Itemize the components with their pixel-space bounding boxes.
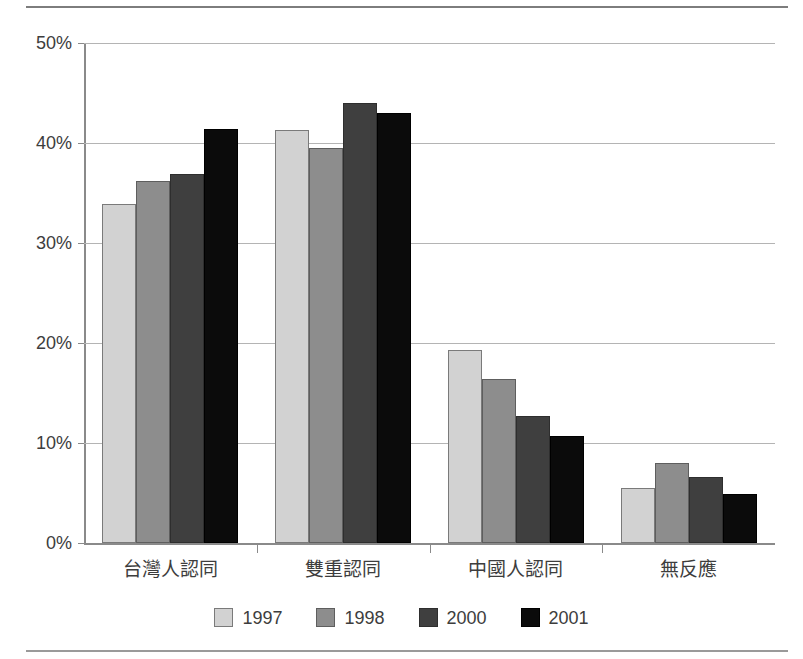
bar-1997-group-1 [102, 204, 136, 543]
bar-chart: 0%10%20%30%40%50% 台灣人認同雙重認同中國人認同無反應 1997… [0, 0, 803, 659]
bar-1998-group-4 [655, 463, 689, 543]
legend-label-2001: 2001 [549, 609, 589, 627]
chart-legend: 1997199820002001 [0, 608, 803, 627]
x-tick-mark [602, 545, 603, 553]
x-axis-category-label-2: 雙重認同 [257, 558, 430, 582]
x-axis-category-label-4: 無反應 [602, 558, 775, 582]
legend-swatch-1998 [316, 608, 335, 627]
legend-swatch-2001 [521, 608, 540, 627]
legend-swatch-2000 [419, 608, 438, 627]
x-tick-mark [257, 545, 258, 553]
y-axis-label-40pct: 40% [10, 134, 72, 152]
y-axis-label-50pct: 50% [10, 34, 72, 52]
plot-area [84, 43, 775, 543]
legend-label-2000: 2000 [447, 609, 487, 627]
bar-group-1 [102, 43, 238, 543]
bar-group-3 [448, 43, 584, 543]
bar-2001-group-1 [204, 129, 238, 543]
bar-2001-group-4 [723, 494, 757, 543]
legend-item-2000: 2000 [419, 608, 487, 627]
bar-1998-group-2 [309, 148, 343, 543]
figure-top-divider [26, 6, 788, 8]
legend-swatch-1997 [214, 608, 233, 627]
bar-1997-group-4 [621, 488, 655, 543]
x-tick-mark [430, 545, 431, 553]
y-axis-label-10pct: 10% [10, 434, 72, 452]
bar-2000-group-4 [689, 477, 723, 543]
bar-2000-group-3 [516, 416, 550, 543]
x-axis-category-label-1: 台灣人認同 [84, 558, 257, 582]
bar-1998-group-3 [482, 379, 516, 543]
bar-2000-group-2 [343, 103, 377, 543]
bar-2001-group-3 [550, 436, 584, 543]
figure-bottom-divider [26, 650, 788, 652]
bar-group-2 [275, 43, 411, 543]
legend-item-1997: 1997 [214, 608, 282, 627]
bar-1998-group-1 [136, 181, 170, 543]
bar-group-4 [621, 43, 757, 543]
y-axis-tick-labels: 0%10%20%30%40%50% [0, 0, 72, 659]
legend-item-1998: 1998 [316, 608, 384, 627]
bar-2000-group-1 [170, 174, 204, 543]
x-axis-category-label-3: 中國人認同 [430, 558, 603, 582]
legend-item-2001: 2001 [521, 608, 589, 627]
bar-1997-group-3 [448, 350, 482, 543]
y-axis-label-0pct: 0% [10, 534, 72, 552]
legend-label-1998: 1998 [344, 609, 384, 627]
bar-1997-group-2 [275, 130, 309, 543]
y-axis-label-30pct: 30% [10, 234, 72, 252]
legend-label-1997: 1997 [242, 609, 282, 627]
bar-2001-group-2 [377, 113, 411, 543]
y-axis-label-20pct: 20% [10, 334, 72, 352]
